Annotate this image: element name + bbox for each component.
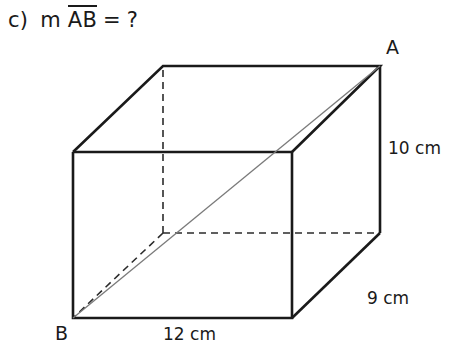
diagonal-segment-ab	[73, 66, 380, 318]
top-face-outline	[73, 66, 380, 152]
dimension-label-depth: 9 cm	[367, 288, 409, 308]
hidden-edge-back-bottom-depth	[73, 233, 163, 318]
dimension-label-height: 10 cm	[388, 138, 441, 158]
vertex-label-b: B	[55, 322, 68, 344]
dimension-label-width: 12 cm	[163, 324, 216, 344]
front-face-outline	[73, 152, 292, 318]
vertex-label-a: A	[386, 36, 399, 58]
geometry-problem-page: c)mAB=? A B 10 cm 9 cm 12 cm	[0, 0, 458, 357]
